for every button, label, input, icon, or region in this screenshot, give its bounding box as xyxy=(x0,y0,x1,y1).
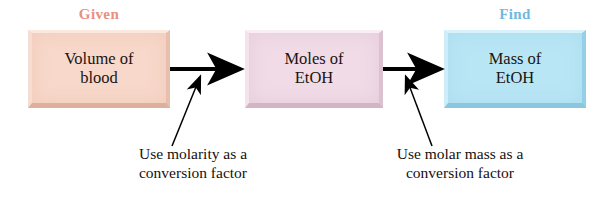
node-volume-of-blood-line1: Volume of xyxy=(65,49,134,68)
leader-arrow-molarity xyxy=(172,77,200,146)
node-mass-of-etoh-line2: EtOH xyxy=(496,68,535,87)
given-label: Given xyxy=(28,6,170,23)
caption-molarity: Use molarity as a conversion factor xyxy=(78,145,308,183)
caption-molar-mass-line2: conversion factor xyxy=(336,164,584,183)
node-moles-of-etoh: Moles of EtOH xyxy=(245,30,383,108)
node-mass-of-etoh-line1: Mass of xyxy=(489,49,542,68)
node-volume-of-blood: Volume of blood xyxy=(28,30,170,108)
diagram-canvas: Given Find Volume of blood Moles of EtOH… xyxy=(0,0,610,218)
caption-molar-mass: Use molar mass as a conversion factor xyxy=(336,145,584,183)
leader-arrow-molar-mass xyxy=(406,77,432,146)
node-moles-of-etoh-line1: Moles of xyxy=(284,49,343,68)
node-moles-of-etoh-line2: EtOH xyxy=(295,68,334,87)
caption-molarity-line1: Use molarity as a xyxy=(78,145,308,164)
node-volume-of-blood-line2: blood xyxy=(80,68,118,87)
find-label: Find xyxy=(444,6,586,23)
node-mass-of-etoh: Mass of EtOH xyxy=(444,30,586,108)
caption-molar-mass-line1: Use molar mass as a xyxy=(336,145,584,164)
caption-molarity-line2: conversion factor xyxy=(78,164,308,183)
